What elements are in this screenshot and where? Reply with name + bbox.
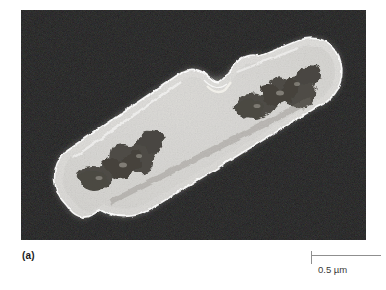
- scale-bar: 0.5 µm: [308, 248, 382, 282]
- scale-bar-label: 0.5 µm: [318, 264, 347, 276]
- panel-letter: (a): [22, 250, 35, 262]
- micrograph-image: Transmission electron micrograph of a ba…: [21, 10, 366, 240]
- scale-bar-left-tick: [311, 251, 312, 264]
- figure-root: Transmission electron micrograph of a ba…: [0, 0, 386, 290]
- scale-bar-line: [311, 255, 381, 256]
- micrograph-panel: Transmission electron micrograph of a ba…: [21, 10, 366, 240]
